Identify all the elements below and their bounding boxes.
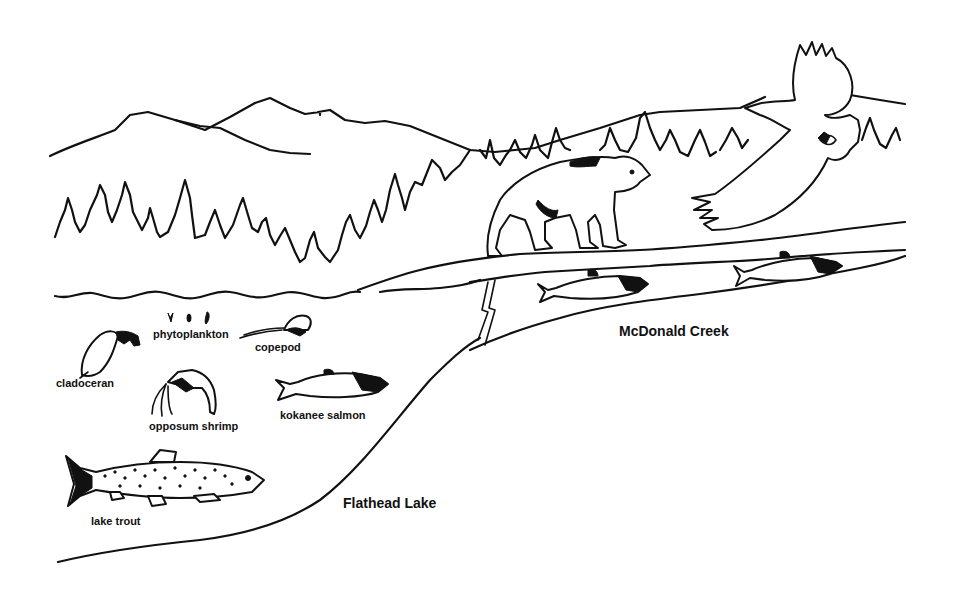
map-break-marks <box>478 280 495 345</box>
label-phytoplankton: phytoplankton <box>153 328 229 340</box>
label-mcdonald-creek: McDonald Creek <box>619 323 729 339</box>
label-cladoceran: cladoceran <box>56 377 114 389</box>
phytoplankton-icon <box>168 312 209 324</box>
lake-shoreline <box>58 338 480 562</box>
bald-eagle <box>692 42 860 230</box>
copepod-icon <box>240 316 311 338</box>
lake-trout-icon <box>66 450 264 506</box>
label-copepod: copepod <box>255 341 301 353</box>
flathead-food-web-diagram: phytoplankton copepod cladoceran opposum… <box>0 0 954 589</box>
cladoceran-icon <box>80 331 140 378</box>
spawning-salmon-1 <box>538 269 648 302</box>
label-opposum-shrimp: opposum shrimp <box>149 420 239 432</box>
label-lake-trout: lake trout <box>91 515 141 527</box>
label-kokanee-salmon: kokanee salmon <box>280 409 366 421</box>
label-flathead-lake: Flathead Lake <box>343 495 437 511</box>
spawning-salmon-2 <box>734 251 842 286</box>
opposum-shrimp-icon <box>152 370 216 416</box>
grizzly-bear <box>488 156 651 256</box>
lake-surface <box>55 292 360 299</box>
kokanee-salmon-icon <box>276 369 388 400</box>
